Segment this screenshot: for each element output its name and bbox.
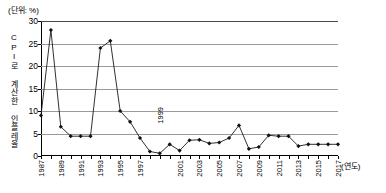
- x-tick-label: 2013: [294, 160, 303, 177]
- x-tick-mark: [120, 156, 121, 159]
- data-point-marker: [207, 141, 211, 145]
- plot-area: 051015202530 198719891991199319951997200…: [41, 21, 338, 156]
- data-point-marker: [326, 142, 330, 146]
- x-tick-mark: [130, 156, 131, 159]
- x-tick-mark: [71, 156, 72, 159]
- x-tick-mark: [190, 156, 191, 159]
- x-tick-mark: [338, 156, 339, 159]
- x-tick-mark: [239, 156, 240, 159]
- x-tick-mark: [41, 156, 42, 159]
- x-tick-label: 2005: [215, 160, 224, 177]
- series-line: [41, 30, 338, 153]
- y-tick-label: 25: [29, 39, 38, 49]
- x-tick-mark: [110, 156, 111, 159]
- x-tick-mark: [160, 156, 161, 159]
- x-tick-mark: [229, 156, 230, 159]
- x-tick-mark: [279, 156, 280, 159]
- x-tick-mark: [199, 156, 200, 159]
- x-tick-label: 2015: [314, 160, 323, 177]
- x-tick-label: 1991: [77, 160, 86, 177]
- x-tick-mark: [61, 156, 62, 159]
- data-point-marker: [247, 147, 251, 151]
- x-tick-mark: [289, 156, 290, 159]
- y-tick-label: 30: [29, 16, 38, 26]
- chart-figure: (단위: %) CPI로 계산한 인플레율 051015202530 19871…: [0, 0, 386, 193]
- y-tick-label: 10: [29, 106, 38, 116]
- data-series-line: [41, 21, 338, 156]
- inline-year-annotation: 1999: [156, 107, 165, 124]
- x-tick-mark: [318, 156, 319, 159]
- data-point-marker: [217, 140, 221, 144]
- x-tick-mark: [259, 156, 260, 159]
- y-tick-label: 15: [29, 84, 38, 94]
- x-tick-mark: [150, 156, 151, 159]
- x-tick-mark: [308, 156, 309, 159]
- x-tick-label: 1989: [57, 160, 66, 177]
- x-tick-mark: [81, 156, 82, 159]
- data-point-marker: [306, 142, 310, 146]
- x-tick-label: 2001: [176, 160, 185, 177]
- x-tick-label: 1993: [96, 160, 105, 177]
- data-point-marker: [49, 28, 53, 32]
- x-tick-mark: [180, 156, 181, 159]
- x-tick-mark: [249, 156, 250, 159]
- x-tick-mark: [51, 156, 52, 159]
- x-tick-mark: [269, 156, 270, 159]
- unit-note-label: (단위: %): [8, 4, 39, 15]
- data-point-marker: [88, 134, 92, 138]
- x-tick-mark: [100, 156, 101, 159]
- x-tick-label: 1997: [136, 160, 145, 177]
- data-point-marker: [79, 134, 83, 138]
- x-tick-mark: [209, 156, 210, 159]
- x-tick-mark: [298, 156, 299, 159]
- data-point-marker: [197, 138, 201, 142]
- x-tick-label: 1995: [116, 160, 125, 177]
- y-axis-title: CPI로 계산한 인플레율: [8, 26, 20, 156]
- data-point-marker: [316, 142, 320, 146]
- x-tick-mark: [328, 156, 329, 159]
- x-tick-label: 2007: [235, 160, 244, 177]
- x-tick-mark: [219, 156, 220, 159]
- x-axis-title: (연도): [341, 160, 360, 171]
- x-tick-mark: [91, 156, 92, 159]
- x-tick-mark: [170, 156, 171, 159]
- x-tick-label: 1987: [37, 160, 46, 177]
- data-point-marker: [277, 134, 281, 138]
- x-tick-label: 2003: [195, 160, 204, 177]
- data-point-marker: [39, 113, 43, 117]
- data-point-marker: [336, 142, 340, 146]
- x-tick-label: 2009: [255, 160, 264, 177]
- x-tick-mark: [140, 156, 141, 159]
- x-tick-label: 2011: [275, 160, 284, 176]
- y-tick-label: 20: [29, 61, 38, 71]
